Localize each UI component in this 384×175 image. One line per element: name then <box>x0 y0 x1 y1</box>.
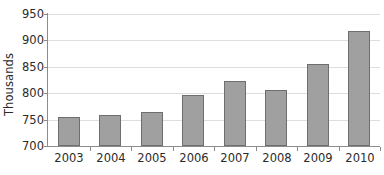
bar-2005[interactable] <box>141 112 163 146</box>
y-axis-tick-mark <box>44 93 48 94</box>
y-axis-tick-mark <box>44 67 48 68</box>
x-axis-tick-label-2003: 2003 <box>48 151 90 165</box>
x-axis-tick-label-2007: 2007 <box>214 151 256 165</box>
bar-2003[interactable] <box>58 117 80 146</box>
y-axis-tick-label: 850 <box>16 62 44 72</box>
bar-2009[interactable] <box>307 64 329 146</box>
gridline <box>48 93 380 94</box>
y-axis-tick-label: 800 <box>16 88 44 98</box>
bar-2008[interactable] <box>265 90 287 146</box>
gridline <box>48 67 380 68</box>
y-axis-tick-mark <box>44 14 48 15</box>
bar-2010[interactable] <box>348 31 370 146</box>
y-axis-tick-label: 700 <box>16 141 44 151</box>
x-axis-tick-label-2009: 2009 <box>297 151 339 165</box>
bar-2007[interactable] <box>224 81 246 146</box>
x-axis-tick-label-2004: 2004 <box>90 151 132 165</box>
x-axis-tick-label-2006: 2006 <box>173 151 215 165</box>
bar-chart: Thousands 700750800850900950 20032004200… <box>0 0 384 175</box>
gridline <box>48 14 380 15</box>
y-axis-tick-label: 900 <box>16 35 44 45</box>
x-axis-tick-label-2008: 2008 <box>256 151 298 165</box>
x-axis-tick-label-2005: 2005 <box>131 151 173 165</box>
plot-area <box>48 14 380 146</box>
gridline <box>48 120 380 121</box>
bar-2004[interactable] <box>99 115 121 146</box>
x-axis-tick-label-2010: 2010 <box>339 151 381 165</box>
y-axis-title: Thousands <box>1 0 17 172</box>
y-axis-tick-labels: 700750800850900950 <box>16 0 44 175</box>
y-axis-tick-label: 950 <box>16 9 44 19</box>
gridline <box>48 40 380 41</box>
y-axis-tick-label: 750 <box>16 115 44 125</box>
y-axis-tick-mark <box>44 120 48 121</box>
y-axis-tick-mark <box>44 146 48 147</box>
bar-2006[interactable] <box>182 95 204 146</box>
y-axis-tick-mark <box>44 40 48 41</box>
